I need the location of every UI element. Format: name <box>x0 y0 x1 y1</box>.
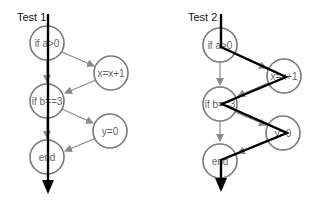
test-1-title: Test 1 <box>17 11 46 23</box>
node-y-zero: y=0 <box>93 114 127 148</box>
svg-text:x=x+1: x=x+1 <box>97 68 125 79</box>
test-2-panel: Test 2 if a>0 x=x+1 if b==3 y=0 end <box>188 11 301 192</box>
edge-b-to-y <box>62 109 93 123</box>
test-2-title: Test 2 <box>188 11 217 23</box>
svg-text:y=0: y=0 <box>102 126 119 137</box>
edge-y-to-end <box>65 138 96 151</box>
path-arrow-icon <box>215 178 227 192</box>
edge-b-to-y <box>235 112 266 125</box>
test-1-panel: Test 1 if a>0 x=x+1 if b==3 y=0 end <box>17 11 128 194</box>
node-y-zero: y=0 <box>266 116 300 150</box>
edge-a-to-x <box>62 52 94 66</box>
path-arrow-icon <box>42 180 54 194</box>
node-x-increment: x=x+1 <box>94 56 128 90</box>
edge-x-to-b <box>65 80 96 93</box>
control-flow-diagram: Test 1 if a>0 x=x+1 if b==3 y=0 end <box>0 0 334 204</box>
